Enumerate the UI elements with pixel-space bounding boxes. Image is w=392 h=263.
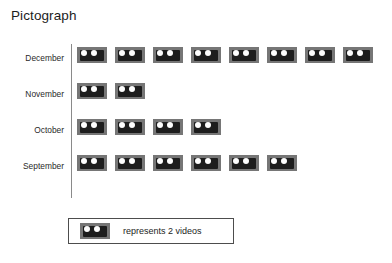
tape-reel-left <box>119 122 125 128</box>
tape-reel-left <box>81 86 87 92</box>
tape-reel-left <box>81 50 87 56</box>
tape-reel-right <box>205 158 211 164</box>
pictograph-row: November <box>0 82 392 118</box>
video-cassette-icon <box>191 47 221 63</box>
video-cassette-icon <box>153 155 183 171</box>
video-cassette-icon <box>77 47 107 63</box>
video-cassette-icon <box>115 155 145 171</box>
tape-reel-left <box>309 50 315 56</box>
tape-reel-right <box>243 158 249 164</box>
tape-reel-right <box>167 158 173 164</box>
tape-reel-left <box>119 158 125 164</box>
legend-icon-slot <box>80 223 110 239</box>
tape-reel-right <box>91 50 97 56</box>
video-cassette-icon <box>267 47 297 63</box>
tape-reel-right <box>167 50 173 56</box>
tape-reel-right <box>319 50 325 56</box>
video-cassette-icon <box>77 155 107 171</box>
video-cassette-icon <box>191 119 221 135</box>
video-cassette-icon <box>267 155 297 171</box>
tape-reel-right <box>129 158 135 164</box>
tape-reel-right <box>129 50 135 56</box>
chart-title: Pictograph <box>11 8 77 23</box>
tape-reel-left <box>84 226 90 232</box>
tape-reel-left <box>157 50 163 56</box>
tape-reel-left <box>119 86 125 92</box>
video-cassette-icon <box>153 119 183 135</box>
video-cassette-icon <box>115 119 145 135</box>
video-cassette-icon <box>191 155 221 171</box>
video-cassette-icon <box>80 223 110 239</box>
tape-reel-right <box>129 86 135 92</box>
pictograph-row: September <box>0 154 392 190</box>
tape-reel-right <box>94 226 100 232</box>
tape-reel-left <box>81 122 87 128</box>
tape-reel-right <box>357 50 363 56</box>
tape-reel-left <box>195 158 201 164</box>
video-cassette-icon <box>115 83 145 99</box>
video-cassette-icon <box>77 83 107 99</box>
tape-reel-left <box>271 158 277 164</box>
legend-box: represents 2 videos <box>68 218 234 244</box>
row-label-december: December <box>0 53 64 63</box>
tape-reel-left <box>195 50 201 56</box>
video-cassette-icon <box>229 47 259 63</box>
video-cassette-icon <box>153 47 183 63</box>
video-cassette-icon <box>77 119 107 135</box>
pictograph-row: December <box>0 46 392 82</box>
icon-strip-december <box>77 47 373 63</box>
tape-reel-left <box>233 50 239 56</box>
tape-reel-left <box>195 122 201 128</box>
tape-reel-left <box>119 50 125 56</box>
tape-reel-right <box>281 158 287 164</box>
tape-reel-right <box>167 122 173 128</box>
tape-reel-left <box>157 158 163 164</box>
tape-reel-right <box>91 86 97 92</box>
tape-reel-right <box>281 50 287 56</box>
pictograph-chart: Pictograph December November October Sep… <box>0 0 392 263</box>
tape-reel-right <box>129 122 135 128</box>
video-cassette-icon <box>229 155 259 171</box>
video-cassette-icon <box>115 47 145 63</box>
video-cassette-icon <box>343 47 373 63</box>
row-label-november: November <box>0 89 64 99</box>
plot-area: December November October September <box>0 44 392 199</box>
tape-reel-left <box>271 50 277 56</box>
tape-reel-right <box>91 158 97 164</box>
tape-reel-left <box>157 122 163 128</box>
icon-strip-september <box>77 155 297 171</box>
row-label-october: October <box>0 125 64 135</box>
pictograph-row: October <box>0 118 392 154</box>
tape-reel-right <box>205 122 211 128</box>
icon-strip-october <box>77 119 221 135</box>
tape-reel-right <box>205 50 211 56</box>
row-label-september: September <box>0 161 64 171</box>
tape-reel-right <box>243 50 249 56</box>
tape-reel-right <box>91 122 97 128</box>
tape-reel-left <box>233 158 239 164</box>
tape-reel-left <box>81 158 87 164</box>
tape-reel-left <box>347 50 353 56</box>
legend-label: represents 2 videos <box>123 226 202 236</box>
video-cassette-icon <box>305 47 335 63</box>
icon-strip-november <box>77 83 145 99</box>
